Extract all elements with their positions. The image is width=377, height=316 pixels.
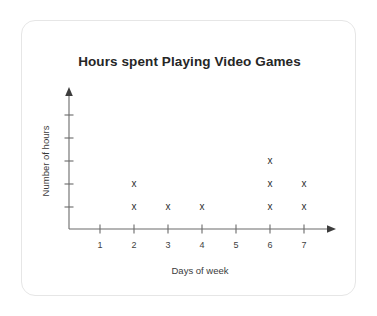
datapoint-mark: x bbox=[200, 201, 205, 212]
datapoint-column-day-4: x bbox=[200, 201, 205, 212]
datapoint-mark: x bbox=[302, 178, 307, 189]
datapoint-mark: x bbox=[132, 201, 137, 212]
y-axis-arrow-icon bbox=[65, 87, 73, 96]
x-tick-label: 1 bbox=[97, 240, 102, 250]
datapoint-column-day-7: x x bbox=[302, 178, 307, 212]
x-axis-title: Days of week bbox=[171, 265, 228, 276]
x-axis-tick-labels: 1 2 3 4 5 6 7 bbox=[97, 240, 306, 250]
datapoint-mark: x bbox=[132, 178, 137, 189]
y-axis-title: Number of hours bbox=[40, 125, 51, 196]
datapoint-column-day-6: x x x bbox=[268, 155, 273, 212]
datapoint-column-day-2: x x bbox=[132, 178, 137, 212]
datapoint-column-day-3: x bbox=[166, 201, 171, 212]
page-root: Hours spent Playing Video Games bbox=[0, 0, 377, 316]
x-tick-label: 2 bbox=[131, 240, 136, 250]
x-tick-label: 5 bbox=[233, 240, 238, 250]
datapoint-mark: x bbox=[268, 155, 273, 166]
x-tick-label: 7 bbox=[301, 240, 306, 250]
plot-area: 1 2 3 4 5 6 7 x x x bbox=[22, 21, 357, 297]
datapoint-mark: x bbox=[268, 201, 273, 212]
datapoint-mark: x bbox=[166, 201, 171, 212]
x-tick-label: 4 bbox=[199, 240, 204, 250]
chart-card: Hours spent Playing Video Games bbox=[21, 20, 356, 296]
x-tick-label: 6 bbox=[267, 240, 272, 250]
dot-plot-svg: 1 2 3 4 5 6 7 x x x bbox=[22, 21, 357, 297]
x-tick-label: 3 bbox=[165, 240, 170, 250]
x-axis-arrow-icon bbox=[327, 225, 336, 233]
datapoint-mark: x bbox=[268, 178, 273, 189]
datapoint-mark: x bbox=[302, 201, 307, 212]
